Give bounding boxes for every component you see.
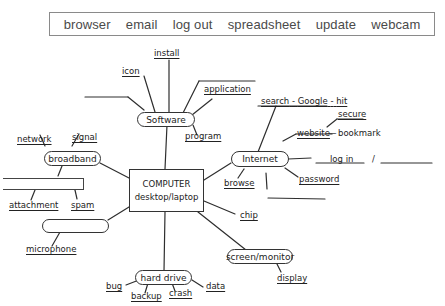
label-crash: crash — [169, 288, 192, 298]
label-application: application — [204, 84, 251, 94]
label-spam: spam — [71, 200, 94, 210]
blank-answer-box — [3, 178, 84, 190]
label-bug: bug — [106, 281, 122, 291]
label-bookmark: bookmark — [338, 128, 381, 138]
label-search-google-hit: search - Google - hit — [261, 96, 347, 106]
label-hit: hit — [336, 96, 347, 106]
blank-answer-node — [42, 219, 109, 233]
label-dash: - — [330, 96, 333, 106]
label-backup: backup — [131, 291, 162, 301]
label-program: program — [185, 131, 221, 141]
label-install: install — [154, 48, 179, 58]
label-slash: / — [372, 154, 375, 164]
label-bookmark-dash: — — [328, 128, 337, 138]
label-secure: secure — [338, 109, 366, 119]
central-node-title: COMPUTER — [143, 178, 191, 191]
label-browse: browse — [224, 178, 255, 188]
label-dash: - — [292, 96, 295, 106]
label-data: data — [206, 281, 225, 291]
label-attachment: attachment — [9, 200, 58, 210]
label-password: password — [299, 174, 339, 184]
label-display: display — [277, 273, 307, 283]
label-chip: chip — [240, 210, 258, 220]
label-network: network — [17, 134, 52, 144]
label-log-in: log in — [330, 154, 353, 164]
node-internet: Internet — [231, 151, 289, 167]
central-node-computer: COMPUTER desktop/laptop — [129, 169, 204, 212]
node-software: Software — [137, 112, 195, 127]
node-hard-drive: hard drive — [135, 270, 192, 285]
node-screen-monitor: screen/monitor — [227, 249, 293, 264]
node-broadband: broadband — [44, 151, 101, 166]
label-search: search — [261, 96, 289, 106]
label-website: website — [297, 128, 330, 138]
label-icon: icon — [122, 66, 140, 76]
label-microphone: microphone — [26, 244, 76, 254]
label-google: Google — [298, 96, 328, 106]
label-signal: signal — [72, 132, 97, 142]
central-node-subtitle: desktop/laptop — [135, 191, 199, 204]
